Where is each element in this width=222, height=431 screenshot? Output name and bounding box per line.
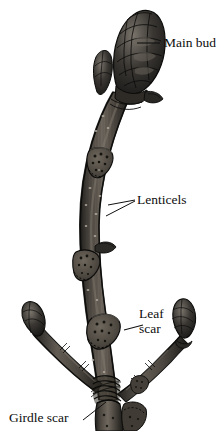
label-lenticels: Lenticels	[137, 192, 186, 207]
label-main-bud: Main bud	[164, 35, 216, 50]
label-leaf-scar: Leaf scar	[139, 306, 164, 336]
label-girdle-scar: Girdle scar	[9, 410, 69, 425]
horse-chestnut-twig-illustration	[0, 0, 222, 431]
